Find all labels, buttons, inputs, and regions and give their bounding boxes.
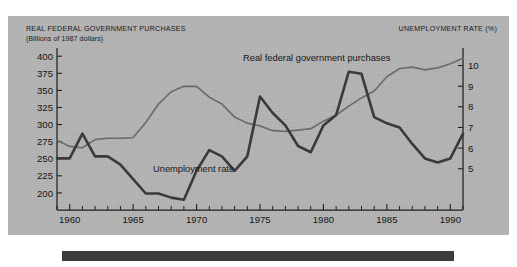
series-line-unemployment-rate [57, 72, 463, 200]
y-right-tick-label: 9 [468, 81, 473, 92]
y-left-tick-label: 225 [37, 170, 53, 181]
y-right-tick-labels: 5678910 [468, 60, 479, 174]
left-axis-title-units: (Billions of 1987 dollars) [26, 34, 186, 43]
bottom-rule [62, 251, 454, 261]
y-right-tick-label: 5 [468, 163, 473, 174]
series-line-government-purchases [57, 58, 463, 148]
y-left-tick-label: 300 [37, 119, 53, 130]
y-right-tick-label: 8 [468, 101, 473, 112]
x-tick-label: 1975 [249, 214, 270, 225]
y-right-tick-marks [458, 66, 463, 169]
series-annotation-government-purchases: Real federal government purchases [243, 53, 391, 63]
y-right-tick-label: 10 [468, 60, 479, 71]
x-tick-label: 1990 [440, 214, 461, 225]
x-tick-marks [57, 204, 463, 210]
y-left-tick-labels: 200225250275300325350375400 [37, 51, 53, 199]
y-left-tick-label: 275 [37, 136, 53, 147]
x-tick-label: 1985 [376, 214, 397, 225]
chart-figure: REAL FEDERAL GOVERNMENT PURCHASES (Billi… [0, 0, 517, 267]
x-tick-label: 1960 [59, 214, 80, 225]
series-annotation-unemployment-rate: Unemployment rate [153, 164, 234, 174]
y-left-tick-label: 375 [37, 68, 53, 79]
y-right-tick-label: 7 [468, 122, 473, 133]
right-axis-title: UNEMPLOYMENT RATE (%) [399, 25, 497, 34]
x-tick-label: 1970 [186, 214, 207, 225]
y-left-tick-label: 200 [37, 188, 53, 199]
y-left-tick-marks [57, 56, 62, 193]
left-axis-title-main: REAL FEDERAL GOVERNMENT PURCHASES [26, 25, 186, 34]
y-left-tick-label: 250 [37, 153, 53, 164]
plot-svg: 200225250275300325350375400 5678910 1960… [8, 16, 509, 235]
chart-panel: REAL FEDERAL GOVERNMENT PURCHASES (Billi… [8, 16, 509, 235]
x-tick-label: 1965 [122, 214, 143, 225]
y-left-tick-label: 400 [37, 51, 53, 62]
x-tick-label: 1980 [313, 214, 334, 225]
y-right-tick-label: 6 [468, 143, 473, 154]
y-left-tick-label: 325 [37, 102, 53, 113]
y-left-tick-label: 350 [37, 85, 53, 96]
x-tick-labels: 1960196519701975198019851990 [59, 214, 461, 225]
left-axis-title: REAL FEDERAL GOVERNMENT PURCHASES (Billi… [26, 25, 186, 43]
